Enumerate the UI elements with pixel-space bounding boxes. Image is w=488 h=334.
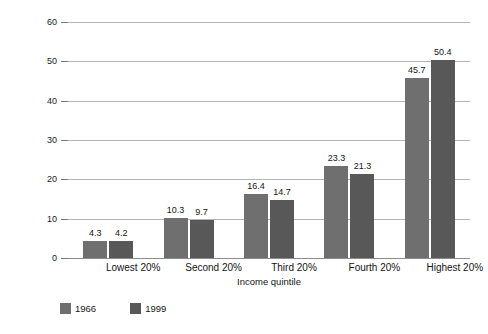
x-axis-tick-label: Highest 20% [395,262,488,273]
legend-label: 1999 [145,303,166,314]
legend-label: 1966 [75,303,96,314]
bar-1966-second-20[interactable] [164,218,188,259]
chart-legend: 19661999 [60,303,200,314]
bar-value-label: 21.3 [345,162,379,171]
bar-1999-second-20[interactable] [190,220,214,258]
bar-1966-highest-20[interactable] [405,78,429,258]
bar-value-label: 4.2 [104,229,138,238]
y-axis-tick-label: 50 [5,57,68,66]
bar-group: 16.414.7Third 20% [244,22,294,258]
bar-1999-third-20[interactable] [270,200,294,258]
x-axis-title: Income quintile [68,276,470,287]
bar-value-label: 9.7 [185,208,219,217]
bar-value-label: 14.7 [265,188,299,197]
y-axis-tick-label: 0 [5,254,68,263]
bar-value-label: 45.7 [400,66,434,75]
legend-color-swatch [130,303,141,314]
bar-group: 4.34.2Lowest 20% [83,22,133,258]
y-axis-tick-label: 20 [5,175,68,184]
bar-group: 10.39.7Second 20% [164,22,214,258]
bar-1966-third-20[interactable] [244,194,268,259]
bar-1966-lowest-20[interactable] [83,241,107,258]
legend-color-swatch [60,303,71,314]
y-axis-tick-label: 30 [5,136,68,145]
legend-item-1999[interactable]: 1999 [130,303,166,314]
y-axis-tick-label: 60 [5,18,68,27]
bar-value-label: 50.4 [426,48,460,57]
bar-1999-lowest-20[interactable] [109,241,133,258]
bar-1966-fourth-20[interactable] [324,166,348,258]
bar-group: 23.321.3Fourth 20% [324,22,374,258]
y-axis-tick-label: 10 [5,215,68,224]
y-axis-tick-label: 40 [5,97,68,106]
plot-area: 01020304050604.34.2Lowest 20%10.39.7Seco… [68,22,470,258]
legend-item-1966[interactable]: 1966 [60,303,96,314]
x-axis-baseline [68,258,470,259]
bar-group: 45.750.4Highest 20% [405,22,455,258]
bar-1999-fourth-20[interactable] [350,174,374,258]
bar-1999-highest-20[interactable] [431,60,455,258]
